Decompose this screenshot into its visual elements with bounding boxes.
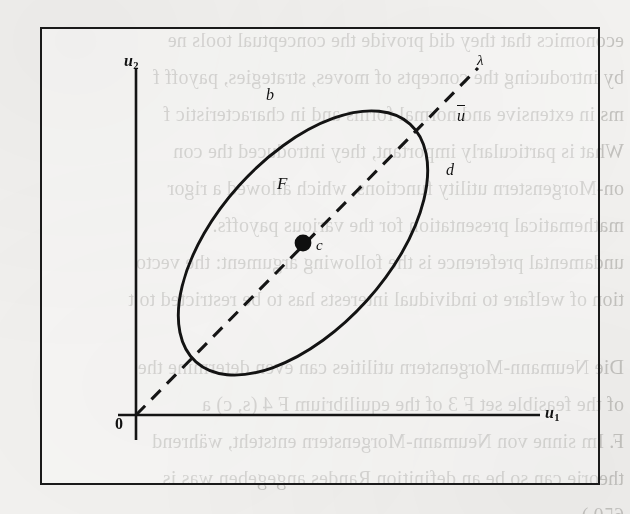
u-bar-overbar: u	[457, 108, 465, 124]
region-label-F: F	[277, 175, 287, 192]
y-axis-label: u2	[124, 53, 139, 71]
origin-label: 0	[115, 416, 123, 432]
point-label-u-bar: u	[457, 108, 465, 124]
ray-label-lambda: λ	[477, 53, 484, 68]
scanned-page: economics that they did provide the conc…	[0, 0, 630, 514]
center-point-c	[295, 235, 312, 252]
boundary-label-b: b	[266, 87, 274, 103]
point-label-c: c	[316, 238, 323, 253]
boundary-label-d: d	[446, 162, 454, 178]
figure-drawing	[0, 0, 630, 514]
x-axis-label: u1	[545, 405, 560, 423]
